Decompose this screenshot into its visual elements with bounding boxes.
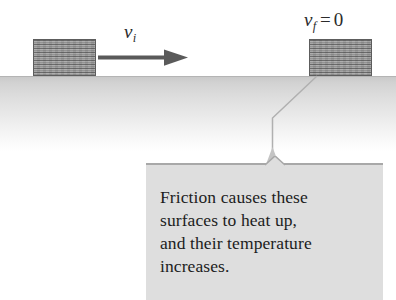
- label-vf-symbol: v: [304, 9, 312, 30]
- callout-line-1: Friction causes these: [160, 186, 380, 209]
- callout-line-3: and their temperature: [160, 232, 380, 255]
- label-vi-subscript: i: [133, 31, 136, 45]
- label-vf-value: 0: [334, 9, 344, 30]
- block-initial: [33, 39, 96, 76]
- ground-surface: [0, 77, 396, 151]
- block-final: [309, 39, 372, 76]
- callout-pointer-icon: [264, 156, 286, 166]
- label-vf-operator: =: [320, 9, 331, 30]
- callout-line-2: surfaces to heat up,: [160, 209, 380, 232]
- figure-canvas: vi vf=0 Friction causes these surfaces t…: [0, 0, 396, 300]
- label-final-velocity: vf=0: [304, 10, 343, 32]
- label-vf-subscript: f: [313, 19, 316, 33]
- label-initial-velocity: vi: [124, 22, 136, 44]
- velocity-arrow: [96, 46, 190, 70]
- label-vi-symbol: v: [124, 21, 132, 42]
- callout-line-4: increases.: [160, 255, 380, 278]
- callout-leader-line: [265, 72, 325, 167]
- callout-text: Friction causes these surfaces to heat u…: [160, 186, 380, 278]
